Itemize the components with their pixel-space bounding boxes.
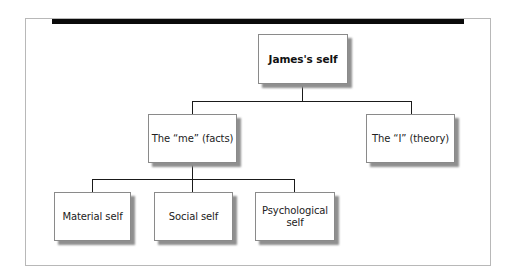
node-james-self: James's self: [258, 34, 348, 84]
connector-to-i: [411, 101, 412, 114]
connector-to-psychological: [294, 179, 295, 192]
node-label: James's self: [269, 53, 338, 65]
node-label: The “I” (theory): [372, 133, 449, 145]
connector-level1-horizontal: [192, 101, 412, 102]
node-label: The “me” (facts): [152, 133, 234, 145]
node-material-self: Material self: [54, 192, 131, 241]
node-i-theory: The “I” (theory): [366, 114, 455, 163]
node-me-facts: The “me” (facts): [148, 114, 237, 163]
node-label: Material self: [62, 211, 122, 223]
connector-to-me: [192, 101, 193, 114]
connector-root-down: [302, 84, 303, 101]
connector-to-social: [192, 179, 193, 192]
node-label: Psychological self: [262, 205, 328, 228]
node-label: Social self: [169, 211, 218, 223]
node-psychological-self: Psychological self: [255, 192, 335, 241]
connector-me-down: [192, 163, 193, 179]
connector-to-material: [92, 179, 93, 192]
connector-level2-horizontal: [92, 179, 295, 180]
node-social-self: Social self: [154, 192, 233, 241]
header-bar: [52, 19, 464, 24]
